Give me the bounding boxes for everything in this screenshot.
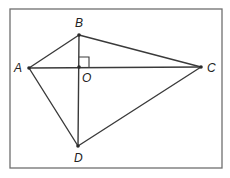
label-c: C: [207, 61, 216, 75]
point-o: [77, 65, 81, 69]
segment-ab: [29, 35, 79, 68]
point-d: [76, 144, 80, 148]
segment-bc: [79, 35, 201, 67]
segment-da: [29, 68, 78, 146]
segment-cd: [78, 67, 201, 146]
right-angle-marker: [79, 57, 89, 67]
diagonal-ac: [29, 67, 201, 68]
diagonal-bd: [78, 35, 79, 146]
point-c: [199, 65, 203, 69]
label-d: D: [74, 151, 83, 165]
point-a: [27, 66, 31, 70]
point-b: [77, 33, 81, 37]
geometry-diagram: A B C D O: [0, 0, 230, 178]
label-a: A: [13, 61, 22, 75]
label-o: O: [82, 71, 91, 85]
label-b: B: [75, 16, 83, 30]
